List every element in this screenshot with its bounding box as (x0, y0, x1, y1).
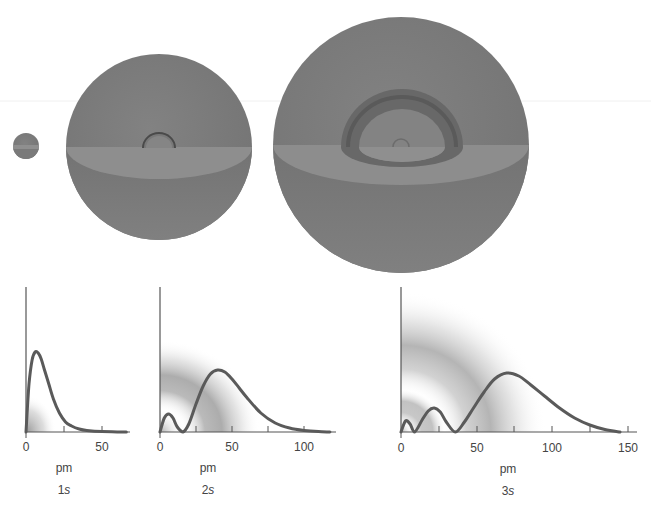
probability-cloud-2s (160, 340, 260, 432)
orbital-figure (0, 0, 651, 509)
tick-label-3s-150: 150 (618, 441, 638, 455)
x-axis-title-1s: pm (56, 461, 73, 475)
probability-cloud-3s (401, 292, 546, 432)
tick-label-1s-0: 0 (23, 440, 30, 454)
tick-label-2s-100: 100 (294, 440, 314, 454)
chart-3s (401, 287, 637, 438)
orbital-label-1s: 1s (58, 483, 71, 497)
sphere-2s (66, 54, 252, 240)
x-axis-title-3s: pm (500, 462, 517, 476)
tick-label-1s-50: 50 (95, 440, 108, 454)
probability-cloud-1s (26, 395, 56, 432)
orbital-label-3s: 3s (502, 484, 515, 498)
tick-label-2s-0: 0 (157, 440, 164, 454)
sphere-3s (273, 17, 529, 273)
chart-2s (160, 287, 336, 438)
tick-label-3s-0: 0 (398, 441, 405, 455)
tick-label-3s-50: 50 (470, 441, 483, 455)
orbital-label-2s: 2s (202, 483, 215, 497)
x-axis-title-2s: pm (200, 461, 217, 475)
sphere-1s (13, 133, 39, 159)
tick-label-3s-100: 100 (542, 441, 562, 455)
tick-label-2s-50: 50 (225, 440, 238, 454)
chart-1s (26, 287, 130, 438)
